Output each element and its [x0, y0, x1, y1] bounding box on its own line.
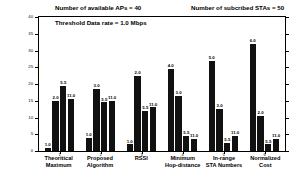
y-tick-label: 15: [28, 99, 33, 103]
y-tick-label: 30: [28, 48, 33, 52]
bar-value-label: 3.0: [94, 84, 100, 88]
y-tick-label: 5: [31, 132, 33, 136]
bar: 11.0: [232, 136, 238, 151]
bar: 11.0: [109, 101, 115, 151]
bar: 11.0: [150, 107, 156, 151]
bar-value-label: 5.5: [265, 140, 271, 144]
bar-value-label: 4.0: [168, 64, 174, 68]
bar-value-label: 11.0: [149, 103, 157, 107]
bar: 5.5: [183, 136, 189, 151]
bar: 2.0: [257, 116, 263, 151]
bar-value-label: 11.0: [190, 134, 198, 138]
bar-value-label: 5.5: [224, 138, 230, 142]
bar: 1.0: [86, 138, 92, 151]
x-category-label: Theoritical Maximum: [45, 155, 73, 168]
annotation-subscribed-stas: Number of subcribed STAs = 50: [191, 5, 284, 11]
bar: 1.0: [45, 148, 51, 151]
y-tick-right: [285, 51, 289, 52]
y-tick-label: 35: [28, 32, 33, 36]
bar-value-label: 2.0: [53, 96, 59, 100]
bar-value-label: 5.5: [142, 106, 148, 110]
y-tick-label: 40: [28, 15, 33, 19]
bar-value-label: 5.5: [101, 98, 107, 102]
bar-value-label: 3.0: [176, 91, 182, 95]
bar-value-label: 11.0: [108, 96, 116, 100]
x-category-label: RSSI: [135, 155, 148, 162]
bar-value-label: 5.5: [183, 131, 189, 135]
bar: 5.5: [265, 144, 271, 151]
y-tick-label: 10: [28, 115, 33, 119]
bar-group: 1.03.05.511.0: [85, 17, 116, 151]
bar-value-label: 5.5: [60, 81, 66, 85]
y-tick-right: [285, 34, 289, 35]
bar-group: 1.02.05.511.0: [126, 17, 157, 151]
bar-value-label: 11.0: [272, 134, 280, 138]
x-category-label: Minimum Hop-distance: [165, 155, 200, 168]
bar: 5.5: [224, 143, 230, 151]
y-tick-right: [285, 84, 289, 85]
bar: 2.0: [52, 101, 58, 151]
bar: 1.0: [127, 144, 133, 151]
bar-group: 4.03.05.511.0: [167, 17, 198, 151]
y-tick-label: 20: [28, 82, 33, 86]
annotation-available-aps: Number of available APs = 40: [55, 5, 141, 11]
bar: 6.0: [250, 44, 256, 151]
bar: 2.0: [134, 76, 140, 151]
bar-group: 5.03.05.511.0: [208, 17, 239, 151]
bar-value-label: 1.0: [86, 133, 92, 137]
bar-value-label: 2.0: [258, 111, 264, 115]
y-tick-right: [285, 151, 289, 152]
bar-group: 1.02.05.511.0: [44, 17, 75, 151]
y-tick-right: [285, 118, 289, 119]
y-tick: [35, 151, 39, 152]
bar: 5.5: [142, 111, 148, 151]
bar-value-label: 11.0: [231, 131, 239, 135]
bar: 4.0: [168, 69, 174, 151]
bar-group: 6.02.05.511.0: [249, 17, 280, 151]
bar-value-label: 3.0: [217, 104, 223, 108]
bar-value-label: 11.0: [67, 94, 75, 98]
bar: 5.5: [101, 102, 107, 151]
x-category-label: Normalized Cost: [250, 155, 280, 168]
bar-value-label: 5.0: [209, 56, 215, 60]
plot-area: Number of available APs = 40 Number of s…: [38, 16, 286, 152]
bar: 11.0: [68, 99, 74, 151]
y-tick-right: [285, 134, 289, 135]
bar-value-label: 1.0: [45, 143, 51, 147]
bar: 11.0: [273, 139, 279, 151]
x-category-label: Proposed Algorithm: [87, 155, 113, 168]
bar: 3.0: [93, 89, 99, 151]
bar-value-label: 6.0: [250, 39, 256, 43]
bar-series-container: 1.02.05.511.01.03.05.511.01.02.05.511.04…: [39, 17, 285, 151]
bar: 3.0: [175, 96, 181, 151]
y-tick-label: 0: [31, 149, 33, 153]
bar: 3.0: [216, 109, 222, 151]
chart-screenshot: Number of covered STAs Number of availab…: [0, 0, 305, 183]
bar-value-label: 1.0: [127, 140, 133, 144]
bar: 5.0: [209, 61, 215, 151]
x-axis-category-labels: Theoritical MaximumProposed AlgorithmRSS…: [38, 155, 286, 181]
bar-value-label: 2.0: [135, 71, 141, 75]
bar: 5.5: [60, 86, 66, 151]
y-tick-label: 25: [28, 65, 33, 69]
bar: 11.0: [191, 139, 197, 151]
y-tick-right: [285, 67, 289, 68]
y-tick-right: [285, 101, 289, 102]
y-tick-right: [285, 17, 289, 18]
x-category-label: In-range STA Numbers: [206, 155, 242, 168]
